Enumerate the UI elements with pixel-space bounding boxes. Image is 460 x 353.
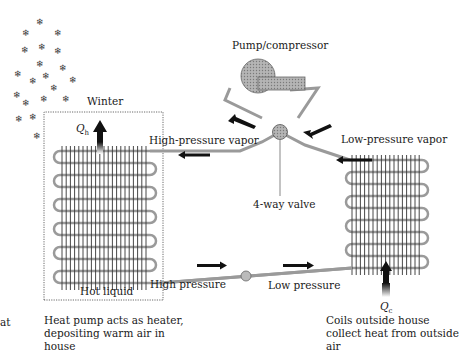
qh-subscript: h: [85, 129, 90, 137]
outdoor-coil: [346, 155, 428, 275]
indoor-caption: Heat pump acts as heater, depositing war…: [44, 314, 184, 353]
compressor-label: Pump/compressor: [232, 39, 328, 51]
snowflake-icon: ❄: [42, 72, 50, 81]
high-pressure-label: High pressure: [150, 278, 226, 290]
pipes: [150, 88, 352, 283]
snowflake-icon: ❄: [69, 76, 77, 85]
arrow-left-icon: [303, 124, 332, 139]
hot-liquid-label: Hot liquid: [80, 285, 133, 297]
snowflake-icon: ❄: [14, 70, 22, 79]
expansion-valve-icon: [241, 271, 251, 281]
snowflake-icon: ❄: [29, 113, 37, 122]
snowflake-icon: ❄: [38, 43, 46, 52]
indoor-coil: [54, 146, 160, 290]
season-label: Winter: [87, 95, 123, 107]
four-way-valve-icon: [273, 125, 288, 197]
outdoor-caption: Coils outside house collect heat from ou…: [326, 314, 460, 353]
snowflake-icon: ❄: [13, 91, 21, 100]
qh-heat-arrow-icon: [93, 120, 107, 154]
snowflake-icon: ❄: [59, 64, 67, 73]
qh-label: Qh: [76, 122, 89, 139]
low-pressure-vapor-label: Low-pressure vapor: [341, 133, 447, 145]
snowflake-icon: ❄: [36, 18, 44, 27]
arrow-right-icon: [283, 262, 314, 270]
snowflake-icon: ❄: [22, 29, 30, 38]
snowflake-icon: ❄: [22, 99, 30, 108]
snowflake-icon: ❄: [40, 95, 48, 104]
snowflake-icon: ❄: [33, 132, 41, 141]
valve-label: 4-way valve: [253, 198, 315, 210]
snowflake-icon: ❄: [21, 46, 29, 55]
snowflake-icon: ❄: [62, 95, 70, 104]
qc-symbol: Q: [380, 300, 389, 312]
arrow-right-icon: [197, 262, 227, 270]
qh-symbol: Q: [76, 122, 85, 134]
snowflake-icon: ❄: [50, 84, 58, 93]
snowflake-icon: ❄: [15, 115, 23, 124]
cropped-caption-fragment: at: [0, 316, 10, 328]
compressor-icon: [241, 59, 305, 93]
snowflake-icon: ❄: [36, 60, 44, 69]
snowflake-icon: ❄: [29, 77, 37, 86]
low-pressure-label: Low pressure: [268, 279, 340, 291]
arrow-left-icon: [228, 114, 256, 129]
high-pressure-vapor-label: High-pressure vapor: [149, 134, 259, 146]
arrow-left-icon: [336, 156, 372, 164]
snowflake-icon: ❄: [54, 47, 62, 56]
snowflake-icon: ❄: [54, 29, 62, 38]
